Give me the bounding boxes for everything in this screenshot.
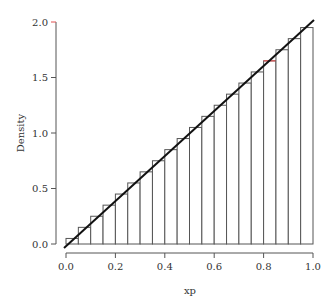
x-tick-label: 0.6 bbox=[206, 261, 222, 272]
histogram-bar bbox=[177, 139, 189, 244]
histogram-bar bbox=[276, 50, 288, 244]
histogram-bar bbox=[288, 39, 300, 244]
y-tick-label: 2.0 bbox=[32, 17, 48, 28]
histogram-bar bbox=[301, 28, 313, 244]
y-tick-label: 1.0 bbox=[32, 128, 48, 139]
y-tick-label: 1.5 bbox=[32, 72, 48, 83]
histogram-chart: 0.00.51.01.52.0 0.00.20.40.60.81.0 xp De… bbox=[0, 0, 336, 301]
y-tick-label: 0.0 bbox=[32, 239, 48, 250]
y-tick-label: 0.5 bbox=[32, 183, 48, 194]
x-tick-label: 0.4 bbox=[157, 261, 173, 272]
histogram-bar bbox=[239, 83, 251, 244]
histogram-bar bbox=[140, 172, 152, 244]
histogram-bar bbox=[91, 216, 103, 244]
histogram-bar bbox=[227, 94, 239, 244]
x-tick-label: 0.8 bbox=[256, 261, 272, 272]
x-axis: 0.00.20.40.60.81.0 bbox=[58, 253, 321, 272]
histogram-bar bbox=[214, 105, 226, 244]
histogram-bar bbox=[202, 116, 214, 244]
histogram-bar bbox=[264, 61, 276, 244]
y-axis-label: Density bbox=[15, 113, 26, 152]
histogram-bar bbox=[251, 72, 263, 244]
x-tick-label: 0.0 bbox=[58, 261, 74, 272]
x-tick-label: 0.2 bbox=[107, 261, 123, 272]
histogram-bar bbox=[152, 161, 164, 244]
histogram-bar bbox=[128, 183, 140, 244]
x-axis-label: xp bbox=[184, 285, 196, 296]
histogram-bar bbox=[165, 150, 177, 244]
histogram-bar bbox=[190, 127, 202, 244]
histogram-bar bbox=[115, 194, 127, 244]
y-axis: 0.00.51.01.52.0 bbox=[32, 17, 56, 250]
x-tick-label: 1.0 bbox=[305, 261, 321, 272]
